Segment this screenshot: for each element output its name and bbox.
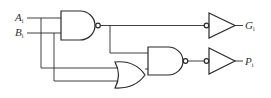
output-label-p: Pi — [245, 56, 253, 68]
input-label-a: Ai — [15, 12, 23, 24]
input-label-b: Bi — [15, 27, 23, 39]
or-gate — [115, 62, 145, 88]
inverter-g — [204, 13, 235, 38]
output-label-g: Gi — [245, 20, 255, 32]
nand-gate-1 — [61, 11, 100, 40]
logic-circuit-diagram: Ai Bi Gi Pi — [0, 0, 271, 98]
circuit-schematic — [0, 0, 271, 98]
nand-gate-2 — [148, 47, 188, 75]
nand1-output-wire — [100, 26, 204, 54]
inverter-p — [204, 48, 235, 74]
